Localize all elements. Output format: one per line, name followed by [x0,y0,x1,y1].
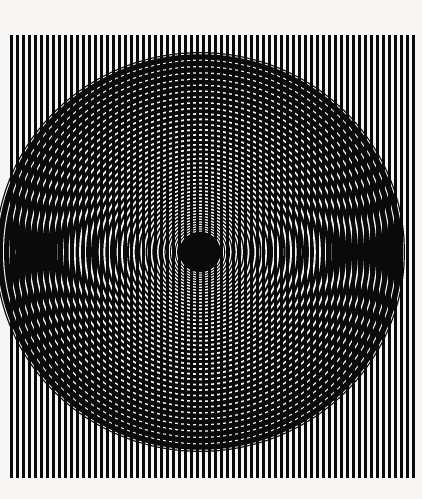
artwork-frame: Concentric Moiré Interference [0,0,422,499]
moire-artwork-canvas [0,0,422,499]
